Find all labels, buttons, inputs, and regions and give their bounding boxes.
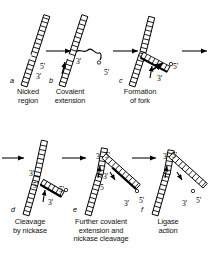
end-label-d-2: 5' bbox=[59, 185, 64, 194]
caption-c: Formation of fork bbox=[110, 88, 170, 105]
end-label-f-0: 3' bbox=[163, 152, 168, 161]
panel-letter-d: d bbox=[11, 205, 15, 214]
end-label-c-0: 5' bbox=[173, 62, 178, 71]
end-label-d-3: 3' bbox=[48, 198, 53, 207]
end-label-e-4: 3' bbox=[124, 199, 129, 208]
end-label-b-0: 3' bbox=[76, 57, 81, 66]
end-label-f-1: 5' bbox=[172, 151, 177, 160]
caption-b: Covalent extension bbox=[41, 88, 99, 105]
panel-letter-f: f bbox=[141, 205, 143, 214]
end-label-a-0: 5' bbox=[40, 62, 45, 71]
panel-letter-b: b bbox=[49, 76, 53, 85]
end-label-f-3: 5' bbox=[196, 196, 201, 205]
panel-letter-e: e bbox=[73, 205, 77, 214]
end-label-e-5: 5' bbox=[139, 196, 144, 205]
end-label-e-2: 3' bbox=[103, 172, 108, 181]
figure-rolling-circle-replication: a b c d e f Nicked region Covalent exten… bbox=[0, 0, 212, 265]
end-label-c-1: 3' bbox=[157, 74, 162, 83]
caption-d: Cleavage by nickase bbox=[1, 218, 59, 235]
caption-f: Ligase action bbox=[144, 218, 192, 235]
end-label-d-0: 3' bbox=[29, 169, 34, 178]
panel-letter-a: a bbox=[10, 76, 14, 85]
panel-e-dna bbox=[85, 148, 140, 216]
end-label-f-2: 3' bbox=[182, 199, 187, 208]
end-label-e-0: 3' bbox=[96, 152, 101, 161]
end-label-d-1: 5' bbox=[33, 181, 38, 190]
panel-letter-c: c bbox=[119, 76, 123, 85]
end-label-a-1: 3' bbox=[36, 72, 41, 81]
end-label-e-3: 5 bbox=[100, 183, 104, 192]
panel-c-dna bbox=[129, 16, 173, 87]
end-label-e-1: 5' bbox=[105, 151, 110, 160]
end-label-b-1: 5' bbox=[104, 68, 109, 77]
caption-e: Further covalent extension and nickase c… bbox=[62, 218, 140, 244]
panel-f-dna bbox=[152, 150, 207, 216]
